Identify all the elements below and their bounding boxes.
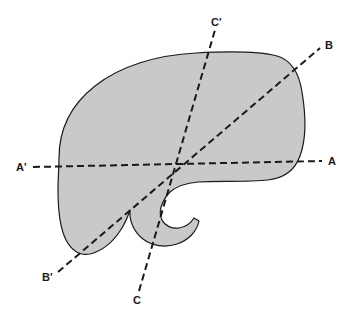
label-b: B <box>325 39 333 51</box>
label-b-prime: B' <box>42 271 53 283</box>
label-c-prime: C' <box>211 16 222 28</box>
label-a-prime: A' <box>16 161 27 173</box>
label-c: C <box>133 294 141 306</box>
label-a: A <box>328 155 336 167</box>
section-diagram: A' A B' B C' C <box>0 0 356 319</box>
figure-container: A' A B' B C' C <box>0 0 356 319</box>
